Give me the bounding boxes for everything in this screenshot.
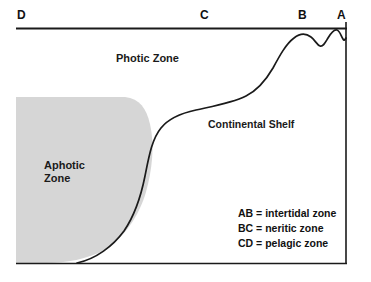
legend-item-ab: AB = intertidal zone	[238, 206, 336, 221]
ocean-zones-diagram: D C B A Photic Zone Aphotic Zone Contine…	[0, 0, 371, 282]
point-label-b: B	[298, 9, 307, 21]
point-label-a: A	[337, 9, 346, 21]
continental-shelf-label: Continental Shelf	[208, 118, 294, 130]
legend-item-bc: BC = neritic zone	[238, 221, 336, 236]
legend-item-cd: CD = pelagic zone	[238, 236, 336, 251]
point-label-c: C	[200, 9, 209, 21]
photic-zone-label: Photic Zone	[116, 52, 179, 65]
zone-legend: AB = intertidal zone BC = neritic zone C…	[238, 206, 336, 251]
point-label-d: D	[17, 9, 26, 21]
aphotic-zone-label: Aphotic Zone	[44, 159, 85, 185]
